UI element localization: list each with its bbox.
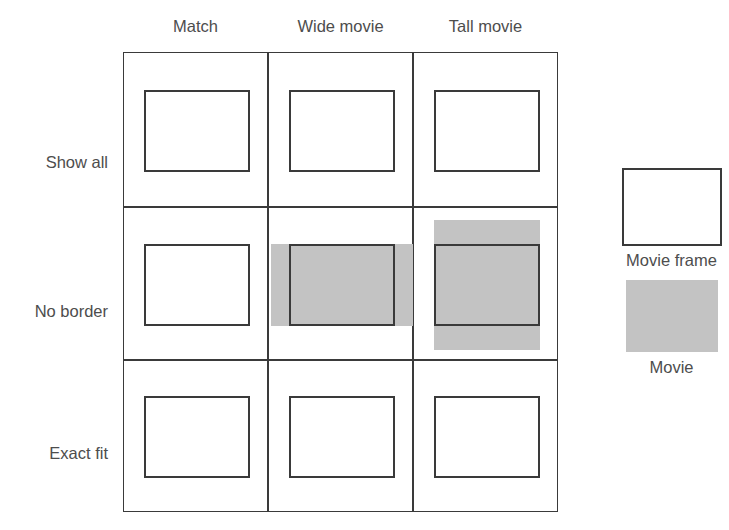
scaling-matrix-grid xyxy=(123,52,558,512)
movie-frame xyxy=(289,90,395,172)
column-header-wide-movie: Wide movie xyxy=(268,14,413,38)
legend-movie-frame-swatch xyxy=(622,168,722,246)
cell-no-border-wide-movie xyxy=(269,208,414,361)
movie-frame xyxy=(434,90,540,172)
stage xyxy=(289,90,395,172)
cell-no-border-match xyxy=(124,208,269,361)
row-label-show-all: Show all xyxy=(0,151,108,173)
legend-movie-frame-label: Movie frame xyxy=(614,251,729,270)
cell-show-all-tall-movie xyxy=(414,53,559,208)
cell-show-all-match xyxy=(124,53,269,208)
cell-show-all-wide-movie xyxy=(269,53,414,208)
stage xyxy=(289,396,395,478)
stage xyxy=(434,244,540,326)
movie-frame xyxy=(434,396,540,478)
row-label-no-border: No border xyxy=(0,300,108,322)
row-label-exact-fit: Exact fit xyxy=(0,442,108,464)
cell-exact-fit-wide-movie xyxy=(269,361,414,513)
stage xyxy=(144,244,250,326)
cell-no-border-tall-movie xyxy=(414,208,559,361)
movie-frame xyxy=(144,396,250,478)
movie-frame xyxy=(289,396,395,478)
movie-frame xyxy=(144,244,250,326)
stage xyxy=(434,396,540,478)
cell-exact-fit-tall-movie xyxy=(414,361,559,513)
movie-frame xyxy=(434,244,540,326)
legend-movie-label: Movie xyxy=(614,358,729,377)
legend-movie-swatch xyxy=(626,280,718,352)
cell-exact-fit-match xyxy=(124,361,269,513)
stage xyxy=(144,90,250,172)
legend: Movie frame Movie xyxy=(614,168,729,377)
column-header-match: Match xyxy=(123,14,268,38)
movie-frame xyxy=(289,244,395,326)
stage xyxy=(289,244,395,326)
column-header-tall-movie: Tall movie xyxy=(413,14,558,38)
movie-frame xyxy=(144,90,250,172)
stage xyxy=(434,90,540,172)
stage xyxy=(144,396,250,478)
